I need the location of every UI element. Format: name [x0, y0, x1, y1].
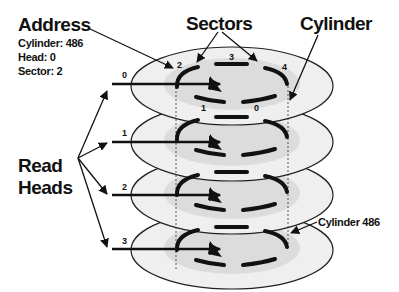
- head-number-1: 1: [122, 128, 127, 138]
- address-arrow: [88, 28, 173, 68]
- disk-diagram: Address Cylinder: 486 Head: 0 Sector: 2 …: [0, 0, 399, 292]
- read-heads-label-line1: Read: [18, 155, 62, 176]
- read-heads-label-line2: Heads: [18, 177, 73, 198]
- sector-number-0: 0: [254, 103, 259, 113]
- sector-number-3: 3: [229, 52, 234, 62]
- head-number-2: 2: [122, 182, 127, 192]
- address-sector: Sector: 2: [18, 65, 63, 77]
- head-number-3: 3: [122, 236, 127, 246]
- read-heads-arrows: [78, 91, 107, 247]
- head-number-0: 0: [122, 70, 127, 80]
- sector-number-2: 2: [177, 60, 182, 70]
- address-cylinder: Cylinder: 486: [18, 37, 83, 49]
- cylinder-486-label: Cylinder 486: [318, 216, 380, 228]
- sector-number-1: 1: [201, 103, 206, 113]
- address-head: Head: 0: [18, 51, 56, 63]
- cylinder-label: Cylinder: [300, 13, 373, 34]
- sectors-label: Sectors: [186, 13, 252, 34]
- sector-number-4: 4: [282, 62, 287, 72]
- address-label: Address: [18, 14, 91, 35]
